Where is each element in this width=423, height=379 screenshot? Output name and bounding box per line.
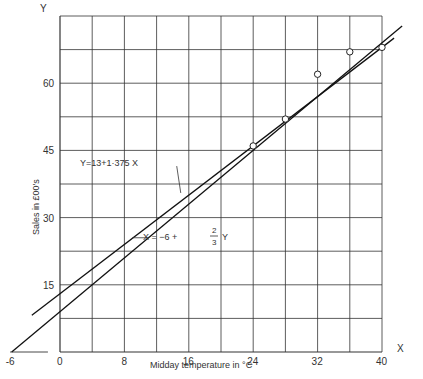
line2-label-prefix: X = −6 +	[143, 232, 177, 242]
data-point	[379, 44, 385, 50]
line1-label-leader	[177, 166, 181, 193]
line2-label: X = −6 + 2 3 Y	[143, 226, 228, 247]
x-axis-title: Midday temperature in °C	[150, 360, 253, 370]
line2-label-den: 3	[212, 238, 217, 247]
grid	[60, 16, 382, 352]
line1-label: Y=13+1·375 X	[80, 158, 138, 168]
regression-lines	[12, 26, 402, 352]
y-axis-letter: Y	[40, 3, 47, 14]
y-tick-label: 60	[43, 78, 55, 89]
data-point	[282, 116, 288, 122]
line2-label-suffix: Y	[222, 232, 228, 242]
y-axis-title: Sales in £00's	[31, 179, 41, 235]
axis-labels: Y X Midday temperature in °C Sales in £0…	[31, 3, 404, 370]
axes: -6081624324015304560	[6, 78, 388, 367]
line-x-on-y	[12, 26, 402, 352]
y-tick-label: 15	[43, 280, 55, 291]
x-tick-label: 0	[57, 356, 63, 367]
x-tick-label: -6	[6, 356, 15, 367]
x-axis-letter: X	[397, 343, 404, 354]
scatter-chart: -6081624324015304560 Y X Midday temperat…	[0, 0, 423, 379]
line2-label-num: 2	[212, 226, 217, 235]
x-tick-label: 32	[312, 356, 324, 367]
line-y-on-x	[32, 38, 394, 315]
y-tick-label: 45	[43, 145, 55, 156]
data-point	[250, 143, 256, 149]
x-tick-label: 8	[121, 356, 127, 367]
y-tick-label: 30	[43, 213, 55, 224]
x-tick-label: 40	[376, 356, 388, 367]
data-point	[347, 49, 353, 55]
data-point	[314, 71, 320, 77]
